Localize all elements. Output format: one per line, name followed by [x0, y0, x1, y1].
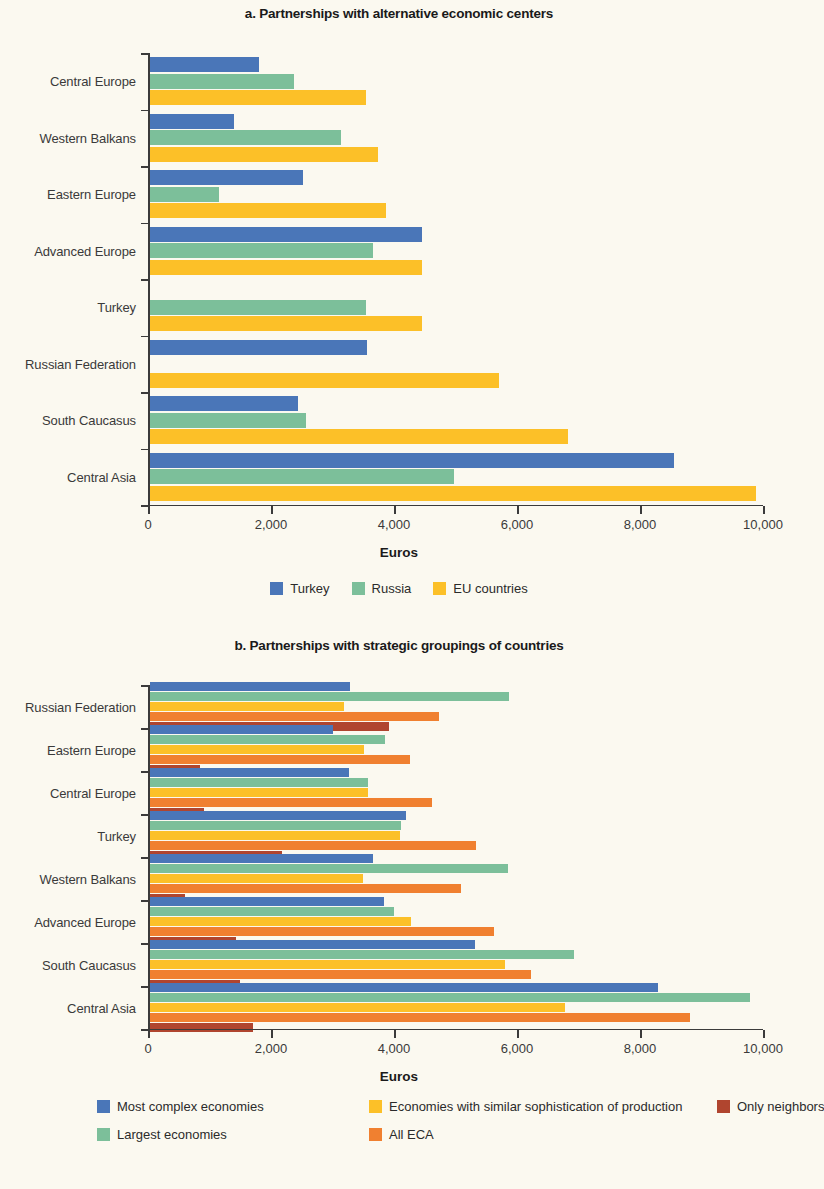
category-tick: [141, 279, 150, 281]
chart-b-x-axis-title: Euros: [0, 1069, 798, 1084]
bar-turkey: [150, 340, 367, 355]
chart-panel-a: a. Partnerships with alternative economi…: [0, 6, 798, 561]
x-axis-tick-label: 6,000: [501, 1041, 534, 1056]
category-label: Western Balkans: [39, 871, 136, 886]
category-label: Russian Federation: [25, 356, 136, 371]
legend-item: All ECA: [369, 1127, 434, 1142]
chart-a-category-labels: Central EuropeWestern BalkansEastern Eur…: [0, 53, 136, 505]
category-label: Advanced Europe: [34, 914, 136, 929]
bar-eu-countries: [150, 316, 422, 331]
legend-item: Russia: [352, 581, 412, 596]
category-label: Central Asia: [67, 1000, 136, 1015]
legend-swatch-icon: [369, 1100, 382, 1113]
bar-all-eca: [150, 755, 410, 764]
category-tick: [141, 685, 150, 687]
legend-item: Largest economies: [97, 1127, 227, 1142]
legend-item: Economies with similar sophistication of…: [369, 1099, 682, 1114]
x-axis-tick-label: 10,000: [743, 1041, 783, 1056]
chart-a-title: a. Partnerships with alternative economi…: [0, 6, 798, 21]
legend-label: Russia: [372, 581, 412, 596]
category-label: Turkey: [97, 828, 136, 843]
x-axis-tick: [394, 1030, 396, 1038]
chart-b-bars: [148, 685, 763, 1029]
category-label: Advanced Europe: [34, 243, 136, 258]
category-tick: [141, 728, 150, 730]
category-label: Eastern Europe: [47, 742, 136, 757]
legend-item: EU countries: [433, 581, 527, 596]
x-axis-tick: [763, 1030, 765, 1038]
bar-eu-countries: [150, 203, 386, 218]
x-axis-tick-label: 4,000: [378, 1041, 411, 1056]
bar-turkey: [150, 57, 259, 72]
chart-b-title: b. Partnerships with strategic groupings…: [0, 638, 798, 653]
legend-item: Only neighbors: [717, 1099, 824, 1114]
legend-label: Largest economies: [117, 1127, 227, 1142]
category-tick: [141, 986, 150, 988]
x-axis-tick: [271, 506, 273, 514]
bar-economies-with-similar-sophistication-of-production: [150, 788, 368, 797]
legend-swatch-icon: [270, 582, 283, 595]
bar-russia: [150, 300, 366, 315]
category-label: Russian Federation: [25, 699, 136, 714]
bar-economies-with-similar-sophistication-of-production: [150, 1003, 565, 1012]
bar-russia: [150, 130, 341, 145]
bar-largest-economies: [150, 692, 509, 701]
category-tick: [141, 771, 150, 773]
category-tick: [141, 449, 150, 451]
category-label: Central Europe: [50, 74, 136, 89]
bar-largest-economies: [150, 778, 368, 787]
legend-label: Most complex economies: [117, 1099, 264, 1114]
category-tick: [141, 943, 150, 945]
bar-eu-countries: [150, 373, 499, 388]
bar-turkey: [150, 170, 303, 185]
legend-label: Turkey: [290, 581, 329, 596]
x-axis-tick: [763, 506, 765, 514]
x-axis-tick: [148, 506, 150, 514]
legend-item: Most complex economies: [97, 1099, 264, 1114]
x-axis-tick: [517, 1030, 519, 1038]
legend-swatch-icon: [97, 1128, 110, 1141]
legend-label: Only neighbors: [737, 1099, 824, 1114]
bar-largest-economies: [150, 907, 394, 916]
category-tick: [141, 336, 150, 338]
category-label: Eastern Europe: [47, 187, 136, 202]
category-label: Turkey: [97, 300, 136, 315]
bar-turkey: [150, 114, 234, 129]
chart-a-legend: TurkeyRussiaEU countries: [0, 581, 798, 596]
category-label: South Caucasus: [42, 413, 136, 428]
x-axis-tick-label: 8,000: [624, 517, 657, 532]
bar-eu-countries: [150, 260, 422, 275]
x-axis-tick: [640, 506, 642, 514]
bar-most-complex-economies: [150, 811, 406, 820]
bar-most-complex-economies: [150, 854, 373, 863]
bar-economies-with-similar-sophistication-of-production: [150, 917, 411, 926]
bar-largest-economies: [150, 993, 750, 1002]
x-axis-tick-label: 4,000: [378, 517, 411, 532]
bar-most-complex-economies: [150, 897, 384, 906]
bar-largest-economies: [150, 864, 508, 873]
category-label: Central Europe: [50, 785, 136, 800]
bar-all-eca: [150, 712, 439, 721]
legend-label: All ECA: [389, 1127, 434, 1142]
bar-all-eca: [150, 970, 531, 979]
chart-b-x-axis: 02,0004,0006,0008,00010,000: [148, 1029, 763, 1050]
bar-most-complex-economies: [150, 682, 350, 691]
category-tick: [141, 110, 150, 112]
x-axis-tick: [271, 1030, 273, 1038]
x-axis-tick: [517, 506, 519, 514]
legend-label: Economies with similar sophistication of…: [389, 1099, 682, 1114]
bar-turkey: [150, 453, 674, 468]
legend-label: EU countries: [453, 581, 527, 596]
legend-swatch-icon: [97, 1100, 110, 1113]
bar-most-complex-economies: [150, 725, 333, 734]
bar-eu-countries: [150, 90, 366, 105]
category-tick: [141, 814, 150, 816]
category-tick: [141, 392, 150, 394]
x-axis-tick-label: 0: [144, 517, 151, 532]
bar-russia: [150, 413, 306, 428]
legend-swatch-icon: [352, 582, 365, 595]
x-axis-tick: [394, 506, 396, 514]
bar-russia: [150, 74, 294, 89]
bar-eu-countries: [150, 486, 756, 501]
legend-swatch-icon: [369, 1128, 382, 1141]
